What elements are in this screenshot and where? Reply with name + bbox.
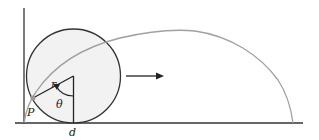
label-theta: θ	[56, 98, 63, 111]
point-p-marker	[31, 96, 36, 101]
label-p: P	[26, 106, 35, 119]
label-d: d	[69, 126, 76, 139]
label-r: r	[51, 78, 57, 91]
cycloid-diagram: r θ P d	[0, 0, 319, 140]
motion-arrow-head-icon	[156, 73, 164, 80]
